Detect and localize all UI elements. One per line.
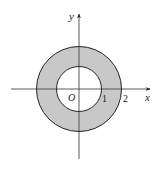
origin-label: O bbox=[68, 92, 75, 103]
y-axis-label: y bbox=[68, 10, 74, 22]
annulus-diagram: x y O 1 2 bbox=[0, 0, 164, 174]
tick-label-1: 1 bbox=[102, 93, 107, 104]
tick-label-2: 2 bbox=[123, 93, 128, 104]
x-axis-label: x bbox=[144, 91, 150, 103]
